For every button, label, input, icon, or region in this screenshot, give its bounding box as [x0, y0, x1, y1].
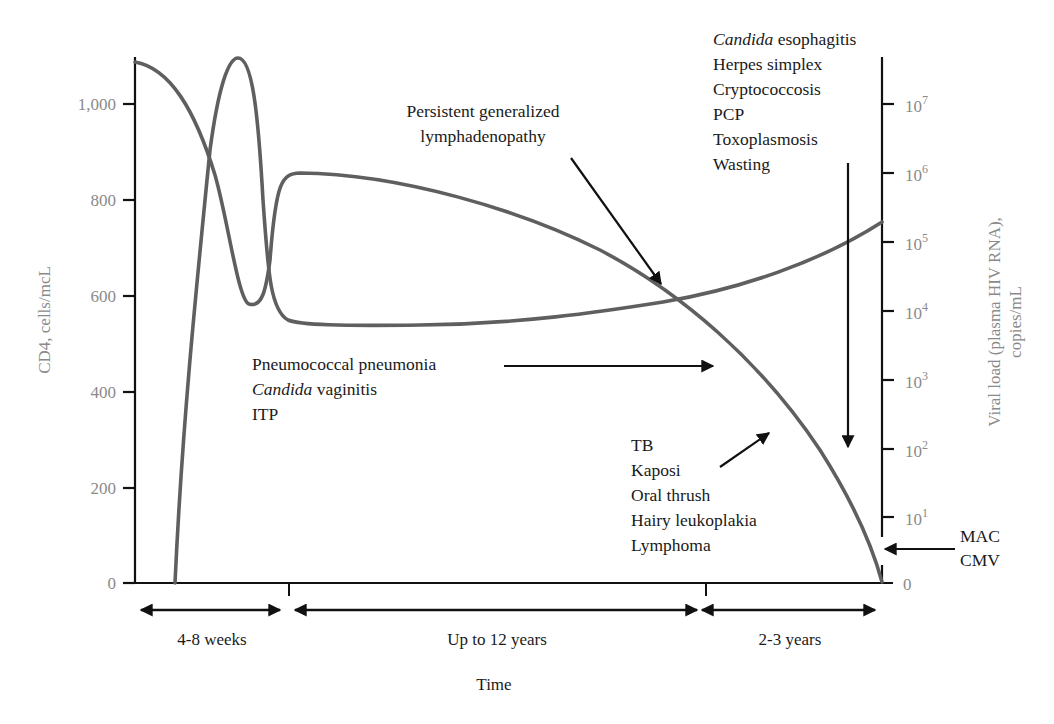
annotation-early-line2: Candida vaginitis [252, 379, 377, 399]
annotation-mid-line5: Lymphoma [631, 535, 711, 555]
left-tick-600: 600 [91, 287, 117, 306]
right-tick-0: 0 [903, 575, 912, 594]
annotation-pgl-line2: lymphadenopathy [420, 126, 546, 146]
left-tick-1000: 1,000 [78, 95, 116, 114]
annotation-mid-line2: Kaposi [631, 460, 681, 480]
left-axis: 1,000 800 600 400 200 0 CD4, cells/mcL [35, 57, 135, 593]
right-tick-1e7: 107 [905, 93, 928, 116]
x-axis [123, 583, 893, 596]
right-tick-1e2: 102 [905, 438, 928, 461]
annotation-early-line3: ITP [252, 404, 279, 424]
annotation-late-line5: Toxoplasmosis [713, 129, 818, 149]
right-tick-1e5: 105 [905, 231, 928, 254]
annotation-late-line4: PCP [713, 104, 744, 124]
annotation-terminal-line1: MAC [960, 526, 1000, 546]
right-tick-1e4: 104 [905, 300, 928, 323]
annotation-late-line3: Cryptococcosis [713, 79, 821, 99]
annotation-late-line1: Candida esophagitis [713, 29, 857, 49]
period-label-acute: 4-8 weeks [177, 630, 246, 649]
annotation-late-line6: Wasting [713, 154, 770, 174]
right-tick-1e1: 101 [905, 506, 928, 529]
left-axis-title: CD4, cells/mcL [35, 266, 54, 374]
annotation-mid-line3: Oral thrush [631, 485, 710, 505]
annotation-pgl-line1: Persistent generalized [406, 101, 559, 121]
annotation-pgl-arrow [571, 158, 661, 284]
x-axis-title: Time [476, 675, 511, 694]
right-tick-1e6: 106 [905, 162, 928, 185]
annotation-mid-line1: TB [631, 435, 653, 455]
period-label-latency: Up to 12 years [447, 630, 547, 649]
right-tick-1e3: 103 [905, 369, 928, 392]
chart-figure: 1,000 800 600 400 200 0 CD4, cells/mcL 1… [0, 0, 1054, 724]
left-tick-800: 800 [91, 191, 117, 210]
annotation-late-line2: Herpes simplex [713, 54, 823, 74]
annotation-terminal-line2: CMV [960, 550, 1000, 570]
right-axis-title-line1: Viral load (plasma HIV RNA), [985, 217, 1004, 427]
right-axis: 107 106 105 104 103 102 101 0 Viral load… [882, 57, 1025, 594]
period-label-aids: 2-3 years [759, 630, 822, 649]
annotation-mid-line4: Hairy leukoplakia [631, 510, 757, 530]
left-tick-200: 200 [91, 479, 117, 498]
chart-svg: 1,000 800 600 400 200 0 CD4, cells/mcL 1… [0, 0, 1054, 724]
annotation-mid-arrow [720, 433, 769, 467]
left-tick-400: 400 [91, 383, 117, 402]
annotation-early-line1: Pneumococcal pneumonia [252, 354, 436, 374]
right-axis-title-line2: copies/mL [1006, 286, 1025, 358]
left-tick-0: 0 [108, 574, 117, 593]
